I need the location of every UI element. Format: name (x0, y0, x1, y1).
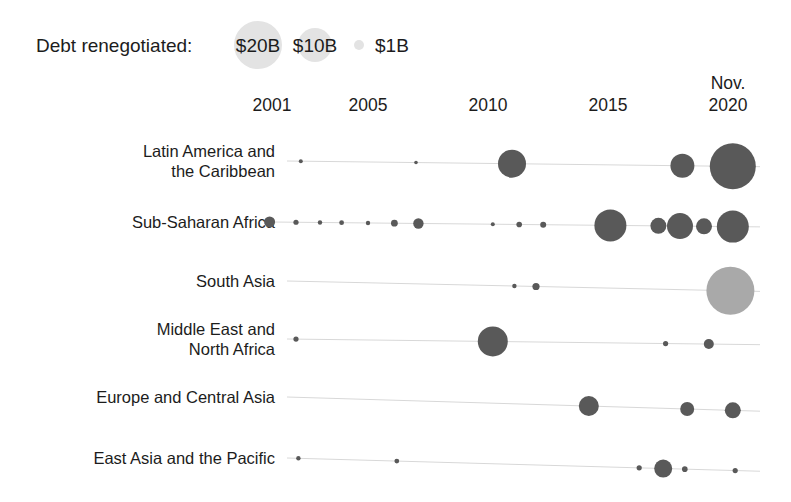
row-label: North Africa (189, 340, 276, 358)
data-bubble (650, 218, 666, 234)
row-label: Latin America and (143, 142, 275, 160)
x-tick-label: 2001 (253, 95, 292, 115)
data-bubble (637, 465, 642, 470)
data-bubble (478, 326, 508, 356)
data-bubble (394, 459, 399, 464)
data-bubble (710, 143, 756, 189)
x-tick-label: 2020 (709, 95, 748, 115)
gridlines (272, 161, 760, 471)
data-bubble (296, 456, 300, 460)
row-label: Europe and Central Asia (96, 388, 276, 406)
gridline-row (287, 458, 760, 471)
data-bubble (682, 466, 688, 472)
legend-title: Debt renegotiated: (36, 35, 192, 56)
data-bubble (540, 222, 546, 228)
row-label: East Asia and the Pacific (93, 449, 275, 467)
data-bubble (663, 341, 668, 346)
bubbles (264, 143, 756, 477)
data-bubble (391, 220, 398, 227)
legend-label-1: $10B (293, 35, 337, 56)
data-bubble (293, 220, 298, 225)
row-labels: Latin America andthe CaribbeanSub-Sahara… (93, 142, 275, 467)
row-label: South Asia (196, 272, 276, 290)
legend-bubble-2 (354, 40, 364, 50)
data-bubble (491, 222, 495, 226)
data-bubble (516, 222, 522, 228)
legend-label-2: $1B (375, 35, 409, 56)
data-bubble (717, 211, 749, 243)
data-bubble (498, 150, 526, 178)
data-bubble (366, 221, 370, 225)
data-bubble (413, 218, 423, 228)
data-bubble (299, 159, 303, 163)
legend-item: $10B (293, 28, 337, 62)
x-tick-label: 2010 (469, 95, 508, 115)
chart-canvas: Debt renegotiated:$20B$10B$1B 2001200520… (0, 0, 791, 502)
data-bubble (339, 220, 344, 225)
data-bubble (414, 161, 418, 165)
row-label: Middle East and (157, 320, 275, 338)
gridline-row (287, 339, 760, 345)
legend-item: $1B (354, 35, 409, 56)
x-axis-ticks: 2001200520102015Nov.2020 (253, 73, 748, 115)
data-bubble (704, 339, 714, 349)
data-bubble (532, 283, 539, 290)
data-bubble (579, 396, 599, 416)
legend: Debt renegotiated:$20B$10B$1B (36, 21, 409, 69)
data-bubble (264, 216, 275, 227)
data-bubble (725, 402, 741, 418)
data-bubble (654, 460, 672, 478)
data-bubble (680, 402, 694, 416)
legend-item: $20B (234, 21, 282, 69)
data-bubble (706, 267, 754, 315)
data-bubble (670, 154, 694, 178)
data-bubble (318, 220, 322, 224)
bubble-chart: Debt renegotiated:$20B$10B$1B 2001200520… (0, 0, 791, 502)
gridline-row (287, 281, 760, 291)
data-bubble (293, 337, 298, 342)
x-tick-label: 2005 (349, 95, 388, 115)
data-bubble (696, 218, 712, 234)
data-bubble (594, 209, 626, 241)
x-tick-label: Nov. (711, 73, 746, 93)
row-label: Sub-Saharan Africa (132, 213, 276, 231)
legend-label-0: $20B (236, 35, 280, 56)
data-bubble (667, 213, 693, 239)
x-tick-label: 2015 (589, 95, 628, 115)
row-label: the Caribbean (171, 162, 275, 180)
data-bubble (512, 284, 516, 288)
data-bubble (733, 468, 738, 473)
